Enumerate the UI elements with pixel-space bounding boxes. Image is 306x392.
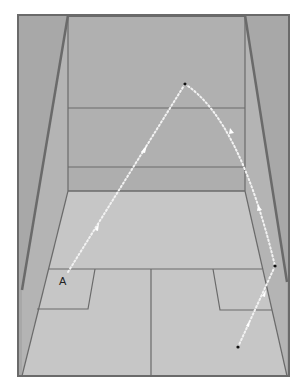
squash-court-diagram: A <box>0 0 306 392</box>
side-wall-hit-point <box>273 264 276 267</box>
front-wall <box>68 15 245 167</box>
floor-bounce-point <box>236 345 239 348</box>
player-position-label: A <box>59 275 67 287</box>
tin-band <box>68 167 245 191</box>
front-wall-hit-point <box>183 82 186 85</box>
